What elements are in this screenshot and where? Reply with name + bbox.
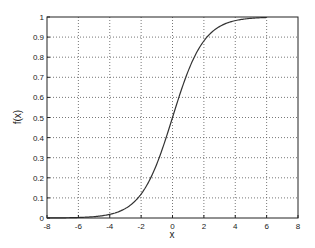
x-tick-label: -6	[75, 222, 83, 231]
x-tick-label: -2	[138, 222, 146, 231]
y-axis-label: f(x)	[12, 110, 23, 124]
y-tick-label: 0.6	[33, 93, 45, 102]
x-axis-label: x	[170, 229, 175, 240]
y-tick-label: 0.2	[33, 174, 45, 183]
x-tick-label: 2	[202, 222, 207, 231]
x-tick-label: 8	[296, 222, 301, 231]
x-tick-label: -8	[43, 222, 51, 231]
x-tick-label: 6	[264, 222, 269, 231]
y-tick-label: 0.8	[33, 53, 45, 62]
y-tick-label: 1	[40, 13, 45, 22]
y-tick-label: 0.4	[33, 134, 45, 143]
y-tick-label: 0	[40, 214, 45, 223]
y-tick-label: 0.3	[33, 154, 45, 163]
y-tick-label: 0.5	[33, 114, 45, 123]
y-tick-label: 0.9	[33, 33, 45, 42]
x-tick-label: -4	[106, 222, 114, 231]
x-tick-label: 4	[233, 222, 238, 231]
sigmoid-chart: -8-6-4-202468 00.10.20.30.40.50.60.70.80…	[0, 0, 315, 248]
y-tick-label: 0.7	[33, 73, 45, 82]
y-tick-label: 0.1	[33, 194, 45, 203]
